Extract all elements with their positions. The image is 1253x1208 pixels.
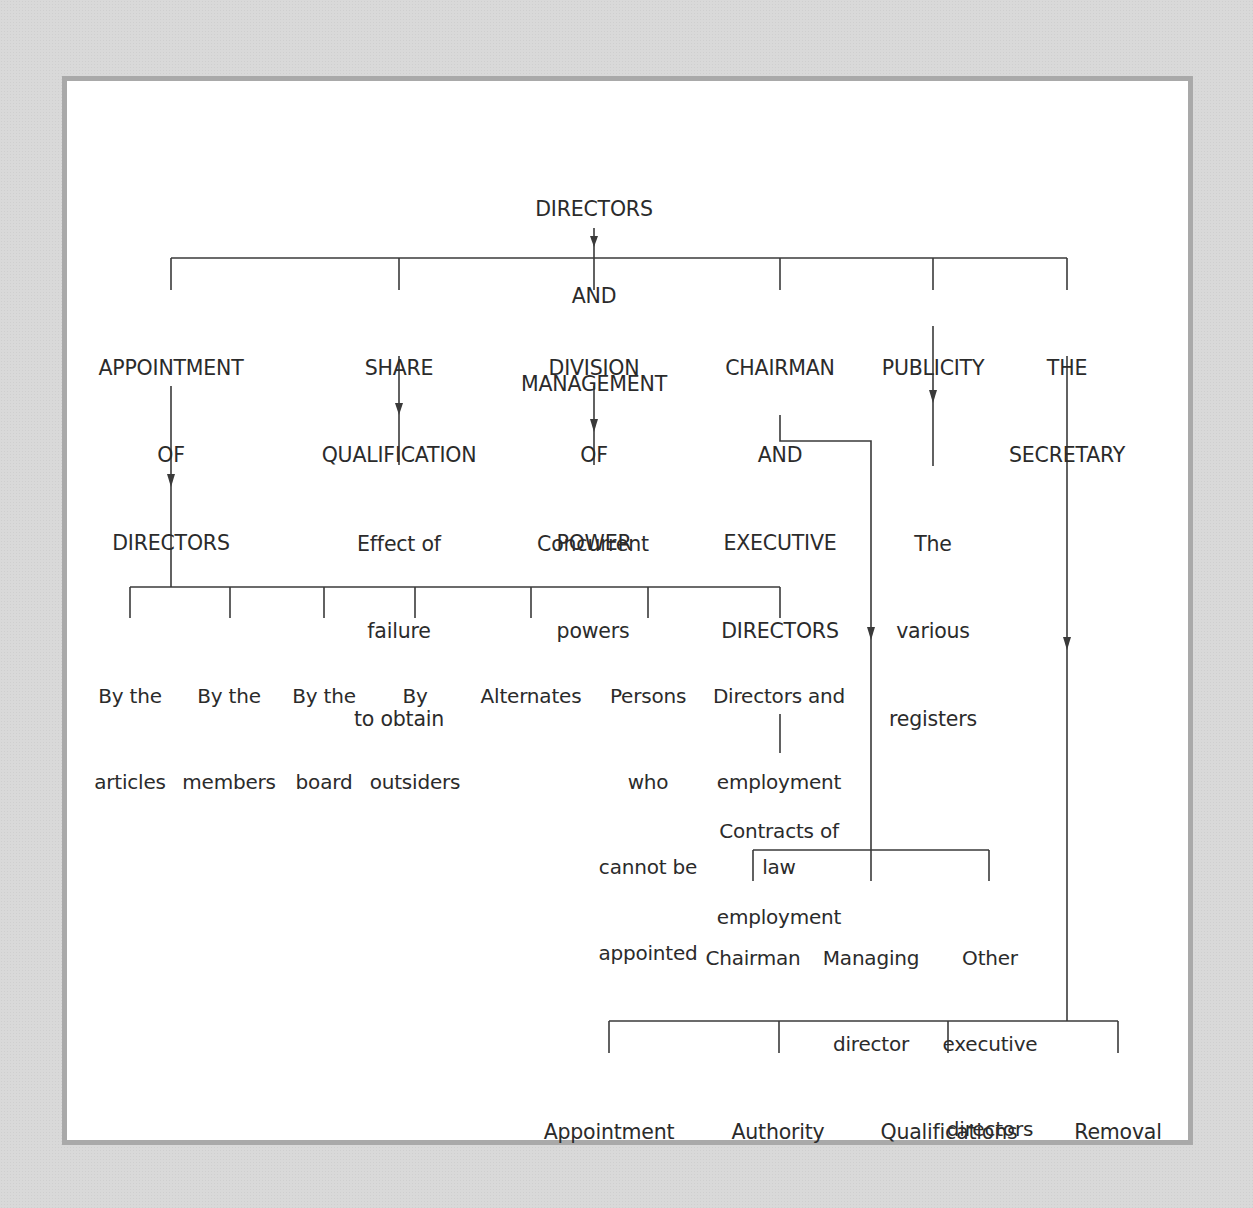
branch-chairman-and-executive-directors: CHAIRMAN AND EXECUTIVE DIRECTORS: [721, 295, 838, 676]
node-appointment: Appointment: [544, 1059, 675, 1176]
branch-label: EXECUTIVE: [721, 529, 838, 558]
node-label: By the: [94, 682, 166, 711]
node-label: board: [292, 768, 356, 797]
node-label: outsiders: [370, 768, 461, 797]
branch-publicity: PUBLICITY: [882, 295, 985, 412]
node-label: By the: [292, 682, 356, 711]
node-label: By the: [182, 682, 276, 711]
node-label: director: [823, 1030, 919, 1059]
branch-label: AND: [721, 441, 838, 470]
node-label: Qualifications: [881, 1118, 1018, 1147]
node-label: Appointment: [544, 1118, 675, 1147]
node-label: Chairman: [705, 944, 800, 973]
node-the-various-registers: The various registers: [889, 471, 977, 764]
node-authority: Authority: [731, 1059, 824, 1176]
branch-label: SHARE: [322, 354, 477, 383]
node-label: members: [182, 768, 276, 797]
branch-appointment-of-directors: APPOINTMENT OF DIRECTORS: [98, 295, 243, 588]
node-label: Authority: [731, 1118, 824, 1147]
node-by-outsiders: By outsiders: [370, 625, 461, 825]
node-label: Effect of: [354, 530, 444, 559]
node-qualifications: Qualifications: [881, 1059, 1018, 1176]
node-label: Other: [943, 944, 1038, 973]
branch-label: OF: [549, 441, 640, 470]
branch-share-qualification: SHARE QUALIFICATION: [322, 295, 477, 500]
branch-label: THE: [1009, 354, 1125, 383]
node-label: By: [370, 682, 461, 711]
node-label: Alternates: [481, 682, 582, 711]
branch-label: SECRETARY: [1009, 441, 1125, 470]
node-label: Concurrent: [537, 530, 649, 559]
node-label: Contracts of: [717, 817, 841, 846]
node-label: Managing: [823, 944, 919, 973]
branch-label: DIRECTORS: [98, 529, 243, 558]
node-label: Removal: [1074, 1118, 1161, 1147]
node-label: appointed: [598, 939, 697, 968]
node-label: who: [598, 768, 697, 797]
node-label: registers: [889, 705, 977, 734]
node-persons-who-cannot-be-appointed: Persons who cannot be appointed: [598, 625, 697, 996]
branch-the-secretary: THE SECRETARY: [1009, 295, 1125, 500]
branch-label: QUALIFICATION: [322, 441, 477, 470]
branch-label: PUBLICITY: [882, 354, 985, 383]
node-by-the-members: By the members: [182, 625, 276, 825]
branch-label: OF: [98, 441, 243, 470]
node-label: The: [889, 530, 977, 559]
node-label: executive: [943, 1030, 1038, 1059]
node-managing-director: Managing director: [823, 887, 919, 1087]
node-removal: Removal: [1074, 1059, 1161, 1176]
node-label: articles: [94, 768, 166, 797]
branch-label: APPOINTMENT: [98, 354, 243, 383]
node-label: Persons: [598, 682, 697, 711]
node-alternates: Alternates: [481, 625, 582, 739]
node-label: cannot be: [598, 853, 697, 882]
branch-label: DIVISION: [549, 354, 640, 383]
node-by-the-articles: By the articles: [94, 625, 166, 825]
node-label: various: [889, 617, 977, 646]
node-chairman: Chairman: [705, 887, 800, 1001]
branch-label: CHAIRMAN: [721, 354, 838, 383]
root-line-1: DIRECTORS: [521, 195, 667, 224]
node-label: Directors and: [713, 682, 845, 711]
node-by-the-board: By the board: [292, 625, 356, 825]
